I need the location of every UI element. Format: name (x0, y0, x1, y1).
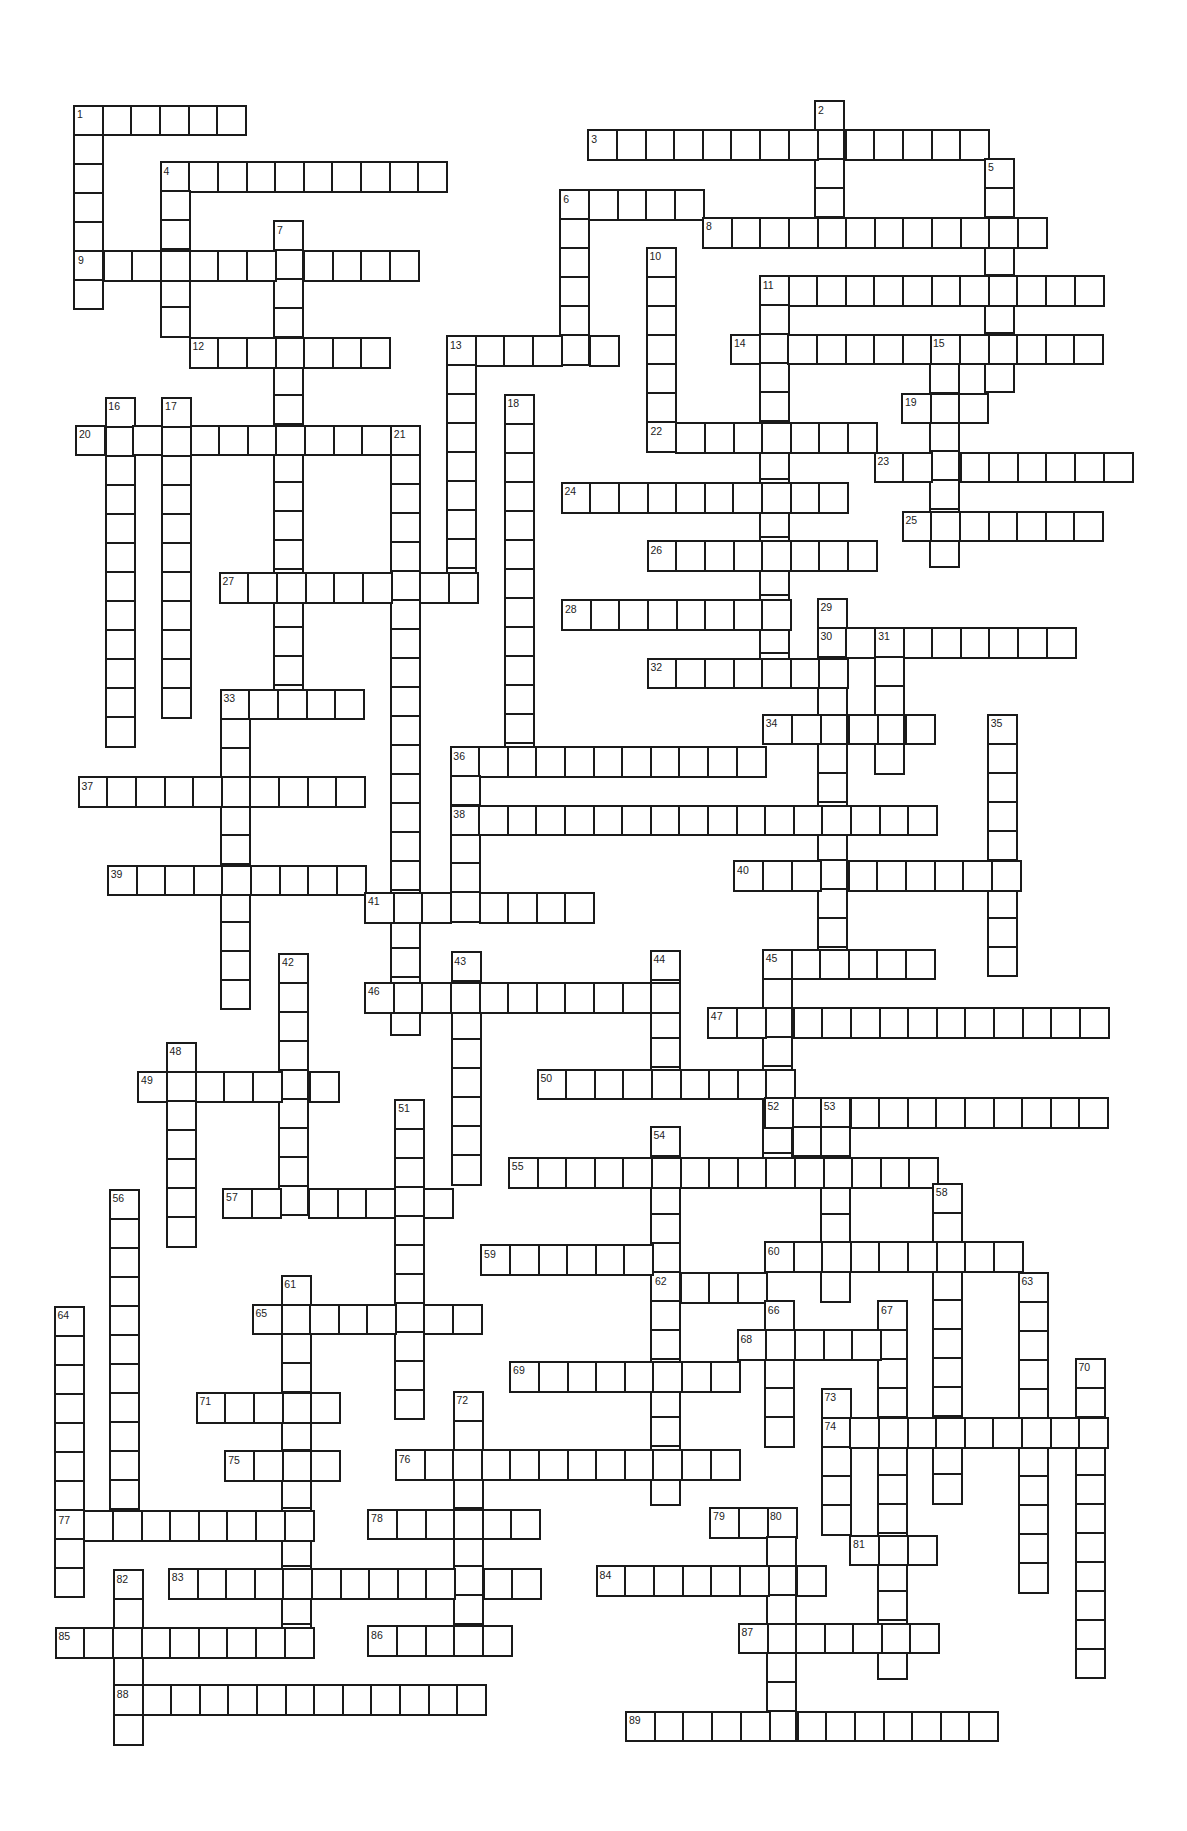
crossword-cell[interactable] (509, 1244, 540, 1276)
crossword-cell[interactable] (451, 1125, 482, 1157)
crossword-cell[interactable] (733, 540, 764, 572)
crossword-cell[interactable] (792, 1097, 823, 1129)
crossword-cell[interactable] (307, 865, 338, 897)
crossword-cell[interactable] (478, 805, 509, 837)
crossword-cell[interactable] (160, 250, 191, 282)
crossword-cell[interactable] (446, 451, 477, 483)
crossword-cell[interactable] (161, 629, 192, 661)
crossword-cell[interactable] (847, 422, 878, 454)
crossword-cell[interactable] (617, 189, 648, 221)
crossword-cell[interactable] (794, 1157, 825, 1189)
crossword-cell[interactable] (309, 1304, 340, 1336)
crossword-cell[interactable] (902, 217, 933, 249)
crossword-cell[interactable] (360, 337, 391, 369)
crossword-cell[interactable] (767, 1507, 798, 1539)
crossword-cell[interactable] (253, 1392, 284, 1424)
crossword-cell[interactable] (54, 1306, 85, 1338)
crossword-cell[interactable] (1078, 1097, 1109, 1129)
crossword-cell[interactable] (814, 187, 845, 219)
crossword-cell[interactable] (764, 1300, 795, 1332)
crossword-cell[interactable] (851, 1329, 882, 1361)
crossword-cell[interactable] (160, 306, 191, 338)
crossword-cell[interactable] (394, 1157, 425, 1189)
crossword-cell[interactable] (623, 1244, 654, 1276)
crossword-cell[interactable] (452, 1449, 483, 1481)
crossword-cell[interactable] (421, 892, 452, 924)
crossword-cell[interactable] (255, 1510, 286, 1542)
crossword-cell[interactable] (109, 1189, 140, 1221)
crossword-cell[interactable] (791, 714, 822, 746)
crossword-cell[interactable] (390, 686, 421, 718)
crossword-cell[interactable] (932, 1270, 963, 1302)
crossword-cell[interactable] (509, 1449, 540, 1481)
crossword-cell[interactable] (931, 129, 962, 161)
crossword-cell[interactable] (160, 277, 191, 309)
crossword-cell[interactable] (984, 303, 1015, 335)
crossword-cell[interactable] (962, 860, 993, 892)
crossword-cell[interactable] (425, 1625, 456, 1657)
crossword-cell[interactable] (535, 805, 566, 837)
crossword-cell[interactable] (253, 1450, 284, 1482)
crossword-cell[interactable] (281, 1333, 312, 1365)
crossword-cell[interactable] (821, 1446, 852, 1478)
crossword-cell[interactable] (622, 982, 653, 1014)
crossword-cell[interactable] (652, 1449, 683, 1481)
crossword-cell[interactable] (102, 105, 133, 137)
crossword-cell[interactable] (593, 746, 624, 778)
crossword-cell[interactable] (273, 626, 304, 658)
crossword-cell[interactable] (564, 892, 595, 924)
crossword-cell[interactable] (984, 158, 1015, 190)
crossword-cell[interactable] (561, 599, 592, 631)
crossword-cell[interactable] (1018, 1562, 1049, 1594)
crossword-cell[interactable] (650, 1184, 681, 1216)
crossword-cell[interactable] (849, 1417, 880, 1449)
crossword-cell[interactable] (105, 426, 136, 458)
crossword-cell[interactable] (504, 713, 535, 745)
crossword-cell[interactable] (823, 1329, 854, 1361)
crossword-cell[interactable] (964, 1007, 995, 1039)
crossword-cell[interactable] (393, 892, 424, 924)
crossword-cell[interactable] (246, 161, 277, 193)
crossword-cell[interactable] (678, 805, 709, 837)
crossword-cell[interactable] (964, 1417, 995, 1449)
crossword-cell[interactable] (675, 482, 706, 514)
crossword-cell[interactable] (109, 1421, 140, 1453)
crossword-cell[interactable] (54, 1451, 85, 1483)
crossword-cell[interactable] (907, 1241, 938, 1273)
crossword-cell[interactable] (646, 392, 677, 424)
crossword-cell[interactable] (766, 1536, 797, 1568)
crossword-cell[interactable] (929, 363, 960, 395)
crossword-cell[interactable] (762, 714, 793, 746)
crossword-cell[interactable] (451, 1067, 482, 1099)
crossword-cell[interactable] (394, 1128, 425, 1160)
crossword-cell[interactable] (73, 105, 104, 137)
crossword-cell[interactable] (968, 1711, 999, 1743)
crossword-cell[interactable] (223, 1071, 254, 1103)
crossword-cell[interactable] (218, 425, 249, 457)
crossword-cell[interactable] (647, 658, 678, 690)
crossword-cell[interactable] (817, 627, 848, 659)
crossword-cell[interactable] (453, 1391, 484, 1423)
crossword-cell[interactable] (390, 570, 421, 602)
crossword-cell[interactable] (105, 658, 136, 690)
crossword-cell[interactable] (707, 1007, 738, 1039)
crossword-cell[interactable] (141, 1627, 172, 1659)
crossword-cell[interactable] (790, 658, 821, 690)
crossword-cell[interactable] (845, 275, 876, 307)
crossword-cell[interactable] (847, 540, 878, 572)
crossword-cell[interactable] (624, 1361, 655, 1393)
crossword-cell[interactable] (821, 1007, 852, 1039)
crossword-cell[interactable] (105, 716, 136, 748)
crossword-cell[interactable] (246, 250, 277, 282)
crossword-cell[interactable] (284, 1510, 315, 1542)
crossword-cell[interactable] (878, 1097, 909, 1129)
crossword-cell[interactable] (281, 1362, 312, 1394)
crossword-cell[interactable] (338, 1304, 369, 1336)
crossword-cell[interactable] (273, 539, 304, 571)
crossword-cell[interactable] (446, 422, 477, 454)
crossword-cell[interactable] (1016, 511, 1047, 543)
crossword-cell[interactable] (1075, 1590, 1106, 1622)
crossword-cell[interactable] (161, 542, 192, 574)
crossword-cell[interactable] (960, 452, 991, 484)
crossword-cell[interactable] (1075, 1648, 1106, 1680)
